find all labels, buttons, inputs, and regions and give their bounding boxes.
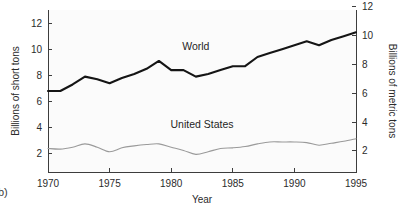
y-tick-label-right: 2 [362,145,368,156]
coal-production-line-chart: 24681012 24681012 1970197519801985199019… [0,0,404,209]
x-tick-label: 1975 [98,178,121,189]
series-label-united-states: United States [170,118,233,130]
plot-background [48,10,356,172]
x-axis-title: Year [192,194,213,205]
y-tick-label-left: 8 [36,70,42,81]
y-tick-label-left: 2 [36,148,42,159]
x-tick-label: 1970 [37,178,60,189]
y-axis-right-title: Billions of metric tons [387,44,398,138]
figure-panel: 24681012 24681012 1970197519801985199019… [0,0,404,209]
series-label-world: World [182,40,209,52]
y-tick-label-right: 10 [362,30,374,41]
panel-caption: b) [0,186,8,198]
y-tick-label-right: 4 [362,117,368,128]
x-tick-label: 1980 [160,178,183,189]
y-tick-label-right: 8 [362,59,368,70]
x-tick-label: 1995 [345,178,368,189]
y-tick-label-right: 12 [362,1,374,12]
x-tick-label: 1985 [222,178,245,189]
y-tick-label-left: 12 [31,18,43,29]
y-tick-label-left: 4 [36,122,42,133]
y-tick-label-left: 6 [36,96,42,107]
y-axis-left-title: Billions of short tons [10,46,21,136]
x-tick-label: 1990 [283,178,306,189]
y-tick-label-left: 10 [31,44,43,55]
y-tick-label-right: 6 [362,88,368,99]
